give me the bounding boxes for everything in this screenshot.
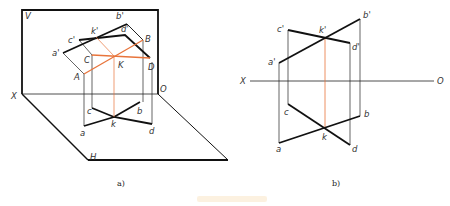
subfigure-label-b: b) bbox=[332, 179, 340, 188]
subfigure-label-a: a) bbox=[117, 179, 125, 188]
label-b-right: b bbox=[364, 109, 369, 119]
label-A: A bbox=[73, 72, 80, 82]
label-b-prime: b' bbox=[116, 11, 124, 21]
label-D: D bbox=[148, 62, 155, 72]
label-a-prime-right: a' bbox=[268, 57, 276, 67]
label-d-prime-right: d' bbox=[352, 42, 360, 52]
line-a-b-right bbox=[279, 116, 360, 143]
label-c: c bbox=[87, 106, 92, 116]
label-a-prime: a' bbox=[52, 48, 60, 58]
left-diagram: V X O H b' d' k' c' a' B D K C A c b k a… bbox=[10, 10, 228, 162]
label-k-prime-right: k' bbox=[319, 25, 326, 35]
line-b-prime-b bbox=[127, 24, 143, 40]
label-o-axis-right: O bbox=[437, 76, 444, 86]
label-d-prime: d' bbox=[121, 24, 129, 34]
projector-lines-right bbox=[279, 19, 360, 145]
projection-figure: V X O H b' d' k' c' a' B D K C A c b k a… bbox=[0, 0, 450, 206]
figure-caption-faded bbox=[197, 196, 267, 202]
label-c-right: c bbox=[284, 107, 289, 117]
label-b: b bbox=[137, 106, 142, 116]
label-a-right: a bbox=[276, 144, 281, 154]
label-h-plane: H bbox=[90, 152, 97, 162]
h-plane-left-edge bbox=[22, 94, 88, 160]
label-v-plane: V bbox=[25, 11, 32, 21]
label-B: B bbox=[145, 34, 151, 44]
right-diagram: X O b' c' k' d' a' c b k a d bbox=[239, 10, 444, 154]
label-k-prime: k' bbox=[91, 26, 98, 36]
line-c-d-right bbox=[288, 104, 350, 145]
h-plane-outline bbox=[22, 94, 228, 160]
label-c-prime: c' bbox=[68, 35, 75, 45]
label-k-right: k bbox=[322, 132, 328, 142]
label-c-prime-right: c' bbox=[277, 24, 284, 34]
label-x-axis-right: X bbox=[239, 76, 246, 86]
label-a: a bbox=[80, 128, 85, 138]
label-K: K bbox=[118, 60, 125, 70]
label-x-axis: X bbox=[10, 91, 17, 101]
v-plane-outline bbox=[22, 10, 158, 94]
label-C: C bbox=[84, 55, 90, 65]
label-d-right: d bbox=[352, 144, 358, 154]
label-o-axis: O bbox=[160, 84, 167, 94]
label-k: k bbox=[111, 119, 117, 129]
label-d: d bbox=[149, 126, 155, 136]
label-b-prime-right: b' bbox=[363, 10, 371, 20]
